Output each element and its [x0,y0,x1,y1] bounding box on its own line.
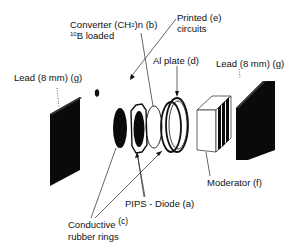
small-dot [95,89,99,97]
converter-superscript: 10 [70,31,77,37]
converter-ring [146,106,162,148]
moderator [197,96,231,152]
label-printed-circuits: Printed (e) circuits [177,12,221,34]
printed-line2: circuits [177,23,207,34]
conductive-line2: rubber rings [68,231,119,242]
label-conductive-rubber-rings: Conductive (c) rubber rings [68,219,128,242]
label-pips-diode: PIPS - Diode (a) [125,198,194,209]
printed-line1: Printed (e) [177,12,221,23]
al-plate [161,98,188,152]
converter-line2: B loaded [77,30,115,41]
label-converter: Converter (CH2)n (b) 10B loaded [70,19,157,41]
lead-block-right [236,81,275,160]
converter-line1-prefix: Converter (CH [70,19,131,30]
lead-block-left [50,97,82,186]
label-lead-right: Lead (8 mm) (g) [216,58,284,69]
conductive-line1: Conductive [68,219,116,230]
label-lead-left: Lead (8 mm) (g) [14,72,82,83]
label-al-plate: Al plate (d) [153,55,199,66]
rubber-ring-front [113,108,127,148]
label-moderator: Moderator (f) [207,177,262,188]
conductive-suffix: (c) [118,216,128,226]
converter-subscript: 2 [131,22,134,28]
pips-diode [131,104,147,153]
converter-line1-suffix: )n (b) [135,19,158,30]
